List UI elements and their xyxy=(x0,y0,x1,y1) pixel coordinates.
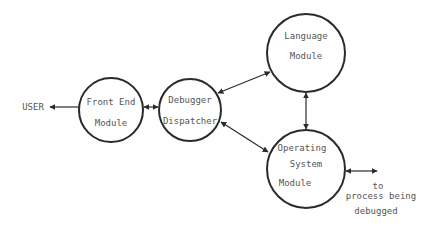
node-label: Language xyxy=(284,31,327,41)
node-front-end-module: Front End Module xyxy=(79,78,143,142)
node-operating-system-module: Operating System Module xyxy=(267,130,345,208)
user-label: USER xyxy=(22,102,44,112)
node-label: Dispatcher xyxy=(163,116,218,126)
node-label: Operating xyxy=(278,143,327,153)
process-label-line-1: to xyxy=(373,181,384,191)
process-label-line-2: process being xyxy=(346,191,416,201)
edge-dispatcher-language xyxy=(218,72,270,93)
node-label: Module xyxy=(95,118,128,128)
node-label: Module xyxy=(290,51,323,61)
node-language-module: Language Module xyxy=(267,14,345,92)
node-debugger-dispatcher: Debugger Dispatcher xyxy=(159,79,221,141)
node-label: Debugger xyxy=(168,95,212,105)
node-label: Front End xyxy=(87,97,136,107)
edge-dispatcher-os xyxy=(221,122,268,152)
process-label-line-3: debugged xyxy=(354,206,397,216)
node-label: Module xyxy=(279,178,312,188)
node-label: System xyxy=(290,159,323,169)
architecture-diagram: Front End Module Debugger Dispatcher Lan… xyxy=(0,0,427,230)
